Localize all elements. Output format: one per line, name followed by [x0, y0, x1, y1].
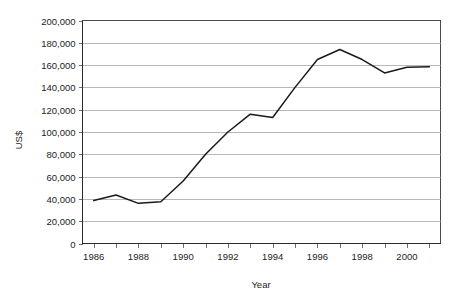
y-tick-label: 20,000: [46, 216, 75, 227]
line-chart-figure: 020,00040,00060,00080,000100,000120,0001…: [0, 0, 462, 300]
y-axis-title: US$: [13, 130, 24, 149]
x-tick-label: 2000: [396, 251, 417, 262]
x-tick-label: 1988: [128, 251, 149, 262]
y-tick-label: 0: [70, 239, 75, 250]
y-tick-label: 40,000: [46, 194, 75, 205]
y-tick-label: 180,000: [41, 38, 75, 49]
y-tick-label: 60,000: [46, 172, 75, 183]
x-axis-title: Year: [251, 279, 270, 290]
x-tick-label: 1992: [217, 251, 238, 262]
plot-area-border: [83, 21, 441, 244]
x-tick-label: 1994: [262, 251, 283, 262]
y-tick-label: 100,000: [41, 127, 75, 138]
y-tick-label: 140,000: [41, 82, 75, 93]
x-tick-label: 1990: [173, 251, 194, 262]
x-tick-label: 1998: [352, 251, 373, 262]
y-tick-label: 160,000: [41, 60, 75, 71]
x-tick-label: 1996: [307, 251, 328, 262]
y-tick-label: 80,000: [46, 149, 75, 160]
chart-canvas: 020,00040,00060,00080,000100,000120,0001…: [0, 0, 462, 300]
x-tick-label: 1986: [83, 251, 104, 262]
y-tick-label: 120,000: [41, 105, 75, 116]
y-tick-label: 200,000: [41, 16, 75, 27]
